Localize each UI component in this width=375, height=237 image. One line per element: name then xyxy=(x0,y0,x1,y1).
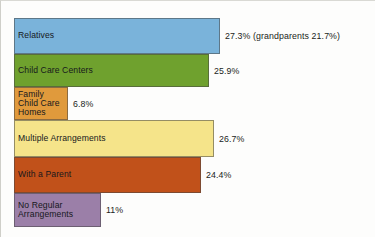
bar-row: Multiple Arrangements 26.7% xyxy=(14,120,371,157)
bar-label: With a Parent xyxy=(15,170,73,180)
bar-row: Child Care Centers 25.9% xyxy=(14,54,371,87)
bar-label: Family Child Care Homes xyxy=(15,90,62,118)
bar-label: Child Care Centers xyxy=(15,66,95,76)
bar-row: Relatives 27.3% (grandparents 21.7%) xyxy=(14,18,371,54)
bar-label: No Regular Arrangements xyxy=(15,201,75,220)
bar-child-care-centers[interactable]: Child Care Centers xyxy=(14,54,209,87)
bar-value-label: 25.9% xyxy=(214,66,239,76)
bar-value-label: 6.8% xyxy=(73,99,93,109)
bar-relatives[interactable]: Relatives xyxy=(14,18,220,54)
bar-label: Multiple Arrangements xyxy=(15,134,108,144)
plot-area: Relatives 27.3% (grandparents 21.7%) Chi… xyxy=(14,18,371,227)
bar-label: Relatives xyxy=(15,31,56,41)
bar-value-label: 26.7% xyxy=(219,134,244,144)
bar-value-label: 27.3% (grandparents 21.7%) xyxy=(225,31,340,41)
bar-no-regular-arrangements[interactable]: No Regular Arrangements xyxy=(14,193,101,227)
bar-with-a-parent[interactable]: With a Parent xyxy=(14,157,201,193)
bar-chart: Relatives 27.3% (grandparents 21.7%) Chi… xyxy=(0,0,375,237)
bar-family-child-care-homes[interactable]: Family Child Care Homes xyxy=(14,87,68,120)
bar-value-label: 24.4% xyxy=(206,170,231,180)
bar-value-label: 11% xyxy=(106,205,123,215)
bar-row: No Regular Arrangements 11% xyxy=(14,193,371,227)
bar-multiple-arrangements[interactable]: Multiple Arrangements xyxy=(14,120,214,157)
bar-row: Family Child Care Homes 6.8% xyxy=(14,87,371,120)
bar-row: With a Parent 24.4% xyxy=(14,157,371,193)
